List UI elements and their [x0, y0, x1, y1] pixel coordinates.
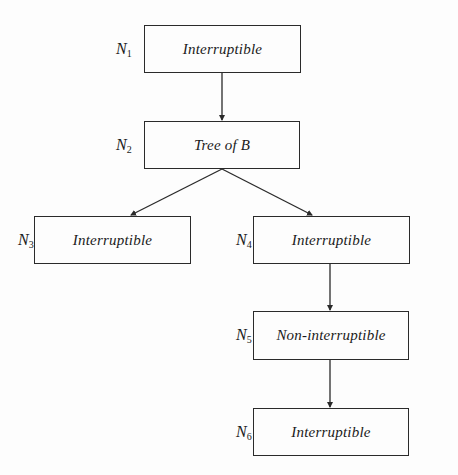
node-text: Interruptible: [292, 232, 371, 249]
edge-n2-n4: [222, 169, 312, 215]
node-n6: Interruptible: [253, 408, 409, 456]
node-label-n6: N6: [236, 424, 252, 442]
node-text: Interruptible: [291, 424, 370, 441]
node-label-index: 2: [127, 144, 132, 155]
node-text: Non-interruptible: [276, 327, 385, 344]
node-label-n5: N5: [236, 327, 252, 345]
node-label-index: 6: [247, 431, 252, 442]
node-text: Tree of B: [194, 137, 250, 154]
node-label-n4: N4: [236, 232, 252, 250]
node-n5: Non-interruptible: [253, 311, 409, 360]
node-label-index: 1: [127, 48, 132, 59]
node-label-n2: N2: [116, 137, 132, 155]
node-text: Interruptible: [183, 41, 262, 58]
node-label-index: 4: [247, 239, 252, 250]
node-n1: Interruptible: [144, 25, 301, 73]
diagram-canvas: N1 Interruptible N2 Tree of B N3 Interru…: [0, 0, 458, 475]
node-label-letter: N: [236, 326, 247, 343]
node-n3: Interruptible: [34, 216, 191, 264]
node-label-letter: N: [18, 231, 29, 248]
node-label-index: 5: [247, 334, 252, 345]
node-label-letter: N: [236, 423, 247, 440]
edge-n2-n3: [131, 169, 222, 215]
node-n2: Tree of B: [144, 121, 300, 169]
node-label-index: 3: [29, 239, 34, 250]
node-label-letter: N: [236, 231, 247, 248]
node-label-n1: N1: [116, 41, 132, 59]
node-label-letter: N: [116, 136, 127, 153]
node-text: Interruptible: [73, 232, 152, 249]
node-n4: Interruptible: [253, 216, 410, 264]
node-label-letter: N: [116, 40, 127, 57]
node-label-n3: N3: [18, 232, 34, 250]
